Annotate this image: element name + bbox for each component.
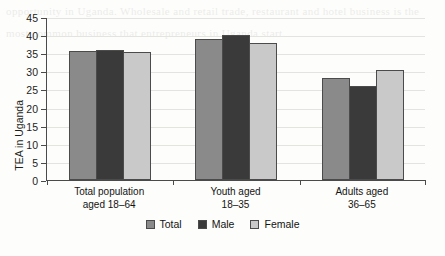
bar-male: [96, 50, 124, 180]
legend-label: Female: [264, 218, 299, 230]
legend-swatch-icon: [250, 220, 259, 229]
x-axis-tick: [47, 180, 48, 185]
legend-item-female[interactable]: Female: [250, 218, 299, 230]
bar-group: [47, 18, 173, 180]
bar-female: [123, 52, 151, 180]
y-axis-tick-label: 30: [26, 66, 38, 78]
bar-female: [376, 70, 404, 180]
y-axis-tick-label: 45: [26, 12, 38, 24]
legend-swatch-icon: [146, 220, 155, 229]
bar-male: [349, 86, 377, 180]
chart-legend: TotalMaleFemale: [0, 218, 445, 230]
x-axis-tick: [173, 180, 174, 185]
legend-label: Total: [160, 218, 182, 230]
bar-chart-figure: TEA in Uganda 051015202530354045 Total p…: [0, 0, 445, 256]
y-axis-tick-label: 5: [32, 157, 38, 169]
bar-total: [69, 51, 97, 180]
bar-group: [300, 18, 426, 180]
y-axis-title: TEA in Uganda: [13, 100, 25, 171]
x-axis-line: [46, 180, 425, 181]
x-axis-tick: [425, 180, 426, 185]
y-axis-tick-label: 35: [26, 48, 38, 60]
y-axis-tick-label: 40: [26, 30, 38, 42]
bar-female: [249, 43, 277, 180]
y-axis-tick-label: 10: [26, 139, 38, 151]
bar-total: [322, 78, 350, 180]
legend-label: Male: [212, 218, 235, 230]
bar-male: [222, 35, 250, 180]
y-axis-tick-label: 15: [26, 121, 38, 133]
x-axis-tick: [300, 180, 301, 185]
legend-swatch-icon: [198, 220, 207, 229]
bar-groups: [47, 18, 425, 180]
bar-total: [195, 39, 223, 180]
plot-area: TEA in Uganda 051015202530354045 Total p…: [46, 18, 425, 181]
legend-item-male[interactable]: Male: [198, 218, 235, 230]
category-label: Adults aged36–65: [287, 186, 437, 211]
category-label-line: 36–65: [287, 199, 437, 212]
y-axis-tick-label: 20: [26, 103, 38, 115]
category-label-line: Adults aged: [287, 186, 437, 199]
y-axis-tick: [41, 181, 46, 182]
legend-item-total[interactable]: Total: [146, 218, 182, 230]
y-axis-tick-label: 25: [26, 84, 38, 96]
bar-group: [173, 18, 299, 180]
